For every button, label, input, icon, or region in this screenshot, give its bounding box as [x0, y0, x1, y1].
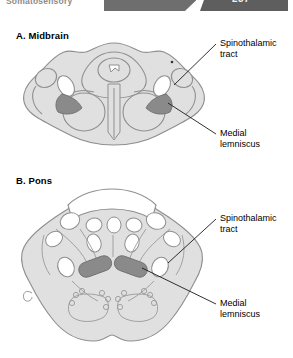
page-number: 237	[232, 0, 250, 4]
pons-cross-section-diagram	[10, 185, 215, 353]
pons-nerve-rootlet	[23, 291, 32, 301]
pons-nucleus-3	[107, 217, 121, 233]
periaqueductal-gray	[98, 58, 130, 82]
midbrain-cross-section-diagram	[14, 40, 214, 150]
page-header: Somatosensory 237	[0, 0, 293, 14]
midbrain-reference-dot	[171, 61, 174, 64]
annotation-pons-medial-lemniscus: Medial lemniscus	[220, 298, 260, 320]
header-decorative-band	[104, 0, 196, 11]
pons-outline	[21, 193, 202, 341]
annotation-midbrain-spinothalamic-tract: Spinothalamic tract	[220, 38, 277, 60]
header-title: Somatosensory	[6, 0, 72, 6]
annotation-midbrain-medial-lemniscus: Medial lemniscus	[220, 128, 260, 150]
annotation-pons-spinothalamic-tract: Spinothalamic tract	[220, 213, 277, 235]
